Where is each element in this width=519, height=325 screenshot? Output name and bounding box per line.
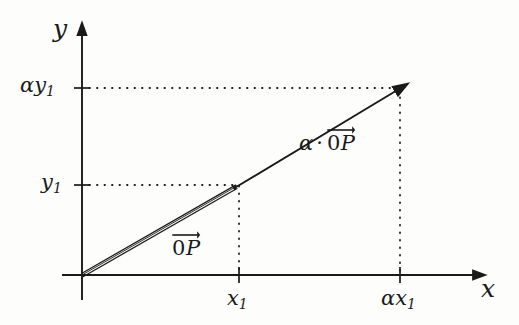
tick-label-alpha-y1: αy1 (20, 75, 55, 99)
tick-label-alpha-y1-sub: 1 (46, 83, 55, 99)
vector-alpha-0P-label-zero: 0 (327, 131, 341, 155)
over-arrow-icon-alpha-0P (327, 125, 356, 134)
y-axis-label: y (53, 16, 67, 41)
vector-alpha-0P-label-prefix: α (299, 133, 313, 154)
over-arrow-icon-0P (172, 230, 201, 239)
tick-label-alpha-x1: αx1 (381, 288, 416, 312)
tick-label-alpha-x1-sub: 1 (407, 296, 416, 312)
tick-label-alpha-y1-base: αy (20, 73, 46, 97)
vector-0P-shape (82, 185, 237, 277)
vector-alpha-0P-label: α · 0P (299, 125, 355, 154)
tick-label-y1: y1 (41, 172, 62, 196)
vector-alpha-0P-label-dot: · (316, 133, 323, 154)
vector-scalar-multiplication-figure: y x αy1 y1 x1 αx1 0P (0, 0, 519, 325)
vector-0P-label: 0P (172, 222, 201, 259)
diagram-canvas (0, 0, 519, 325)
tick-label-y1-base: y (41, 170, 53, 194)
x-axis-label: x (481, 276, 495, 301)
vector-0P-label-letter: P (186, 236, 201, 260)
vector-alpha-0P-label-letter: P (341, 131, 356, 155)
tick-label-y1-sub: 1 (53, 180, 62, 196)
vector-0P-label-zero: 0 (172, 236, 186, 260)
tick-label-x1-base: x (227, 286, 239, 310)
tick-label-x1-sub: 1 (239, 296, 248, 312)
tick-label-alpha-x1-base: αx (381, 286, 407, 310)
tick-label-x1: x1 (227, 288, 248, 312)
